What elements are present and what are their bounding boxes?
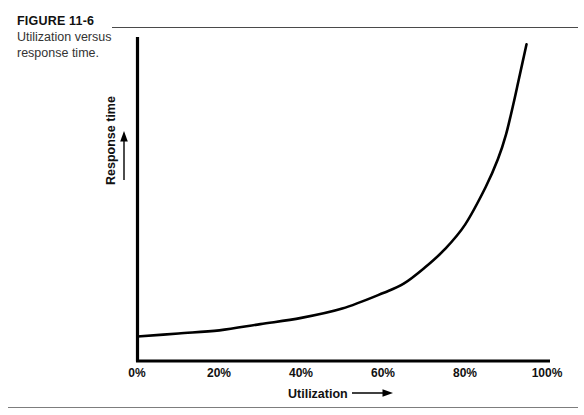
x-axis-title: Utilization <box>288 387 348 401</box>
x-axis-arrow-icon <box>352 389 393 397</box>
chart-plot-area <box>0 0 584 415</box>
x-tick-label-0: 0% <box>128 366 145 380</box>
x-tick-label-2: 40% <box>289 366 313 380</box>
y-axis-title: Response time <box>104 96 118 185</box>
figure-container: FIGURE 11-6 Utilization versus response … <box>0 0 584 415</box>
response-time-curve <box>138 44 527 336</box>
x-tick-label-5: 100% <box>532 366 563 380</box>
x-tick-label-1: 20% <box>207 366 231 380</box>
x-tick-label-3: 60% <box>371 366 395 380</box>
footer-divider <box>8 407 578 408</box>
x-tick-label-4: 80% <box>453 366 477 380</box>
y-axis-arrow-icon <box>120 131 128 180</box>
